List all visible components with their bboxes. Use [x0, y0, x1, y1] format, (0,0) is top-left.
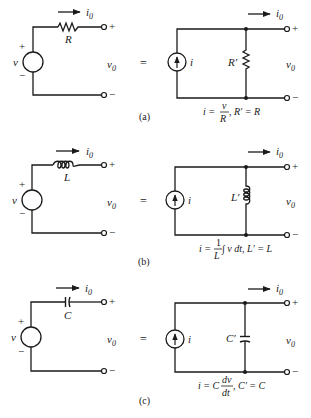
- element-label: L′: [230, 191, 240, 203]
- terminal-plus-icon: [285, 165, 290, 170]
- formula-numerator: dv: [222, 374, 232, 385]
- svg-text:i0: i0: [86, 6, 93, 21]
- equals-sign: =: [140, 332, 147, 346]
- panel-b: i0 L + − + v − v0 = i0 i L′ + − v0: [12, 145, 298, 268]
- panel-a-voltage-source-circuit: i0 R + − + v − v0: [13, 6, 116, 100]
- svg-text:v0: v0: [286, 58, 295, 73]
- wire: [175, 209, 284, 235]
- panel-c-voltage-source-circuit: i0 C + − + v − v0: [11, 282, 116, 376]
- formula: i = C dv dt , C′ = C: [198, 374, 266, 398]
- panel-c: i0 C + − + v − v0 = i0 i C′: [11, 282, 298, 407]
- resistor-icon: [243, 29, 249, 98]
- panel-caption: (b): [138, 256, 150, 268]
- terminal-plus-icon: [102, 163, 107, 168]
- terminal-minus: −: [292, 91, 298, 103]
- svg-text:i0: i0: [276, 145, 283, 160]
- formula-denominator: R: [219, 113, 226, 124]
- terminal-minus-icon: [102, 93, 107, 98]
- panel-a-current-source-circuit: i0 i R′ + − v0 i = v R , R′ = R: [168, 7, 298, 124]
- formula: i = v R , R′ = R: [203, 100, 260, 124]
- terminal-plus: +: [292, 296, 298, 308]
- wire: [175, 348, 284, 372]
- svg-text:i0: i0: [85, 282, 92, 297]
- wire: [33, 72, 101, 95]
- svg-text:i0: i0: [276, 282, 283, 297]
- svg-text:v0: v0: [107, 196, 116, 211]
- wire: [177, 29, 284, 53]
- svg-text:v0: v0: [286, 195, 295, 210]
- node-dot-icon: [244, 233, 248, 237]
- terminal-plus-icon: [102, 300, 107, 305]
- source-label: i: [190, 56, 193, 68]
- terminal-minus: −: [109, 364, 115, 376]
- wire: [177, 71, 284, 98]
- terminal-plus: +: [109, 20, 115, 32]
- terminal-minus-icon: [285, 96, 290, 101]
- source-plus: +: [18, 315, 24, 327]
- source-label: v: [12, 194, 17, 206]
- svg-text:i = C: i = C: [198, 380, 220, 391]
- wire: [31, 302, 65, 327]
- source-minus: −: [19, 207, 25, 219]
- svg-text:v0: v0: [286, 334, 295, 349]
- voltage-source-icon: [21, 327, 41, 347]
- wire: [175, 167, 284, 191]
- terminal-plus: +: [292, 160, 298, 172]
- source-minus: −: [18, 345, 24, 357]
- terminal-minus: −: [109, 88, 115, 100]
- wire: [32, 210, 101, 233]
- wire: [33, 27, 58, 52]
- terminal-plus: +: [109, 158, 115, 170]
- equals-sign: =: [140, 56, 147, 70]
- terminal-minus: −: [292, 228, 298, 240]
- formula-denominator: L: [213, 250, 220, 261]
- panel-a: i0 R + − + v − v0 = i0 i R′ + −: [13, 6, 298, 124]
- terminal-plus-icon: [285, 301, 290, 306]
- inductor-icon: [53, 161, 101, 168]
- resistor-icon: [58, 23, 101, 31]
- source-label: i: [188, 194, 191, 206]
- node-dot-icon: [244, 27, 248, 31]
- inductor-icon: [244, 167, 250, 235]
- wire: [32, 165, 53, 190]
- terminal-plus-icon: [102, 25, 107, 30]
- terminal-minus-icon: [102, 369, 107, 374]
- node-dot-icon: [244, 165, 248, 169]
- formula: i = 1 L ∫ v dt, L′ = L: [199, 237, 272, 261]
- circuit-figure: i0 R + − + v − v0 = i0 i R′ + −: [0, 0, 311, 418]
- svg-text:, C′ = C: , C′ = C: [233, 380, 266, 391]
- wire: [31, 347, 101, 371]
- terminal-minus-icon: [285, 370, 290, 375]
- terminal-minus: −: [292, 365, 298, 377]
- source-minus: −: [19, 69, 25, 81]
- terminal-minus-icon: [102, 231, 107, 236]
- svg-text:i0: i0: [276, 7, 283, 22]
- wire: [175, 303, 284, 330]
- source-label: i: [188, 333, 191, 345]
- source-plus: +: [19, 178, 25, 190]
- svg-text:v0: v0: [107, 58, 116, 73]
- terminal-plus-icon: [285, 27, 290, 32]
- element-label: R: [64, 33, 72, 45]
- svg-text:i0: i0: [86, 145, 93, 160]
- source-label: v: [13, 56, 18, 68]
- terminal-plus: +: [109, 295, 115, 307]
- formula-denominator: dt: [222, 387, 230, 398]
- terminal-minus-icon: [285, 233, 290, 238]
- panel-b-voltage-source-circuit: i0 L + − + v − v0: [12, 145, 116, 238]
- element-label: C: [64, 309, 72, 321]
- equals-sign: =: [140, 194, 147, 208]
- svg-text:i =: i =: [203, 106, 215, 117]
- svg-text:∫ v dt, L′ = L: ∫ v dt, L′ = L: [221, 243, 272, 255]
- element-label: R′: [227, 56, 238, 68]
- terminal-plus: +: [292, 22, 298, 34]
- svg-text:, R′ = R: , R′ = R: [229, 106, 260, 117]
- source-label: v: [11, 331, 16, 343]
- panel-caption: (a): [139, 111, 150, 123]
- svg-text:i =: i =: [199, 243, 211, 254]
- node-dot-icon: [243, 370, 247, 374]
- element-label: C′: [226, 332, 236, 344]
- node-dot-icon: [243, 301, 247, 305]
- svg-text:v0: v0: [107, 333, 116, 348]
- panel-caption: (c): [139, 395, 150, 407]
